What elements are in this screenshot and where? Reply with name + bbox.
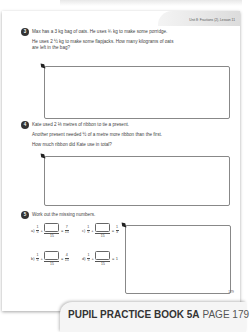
answer-box-3[interactable] [44, 66, 230, 119]
missing-numerator-c[interactable]: 15 [95, 223, 110, 238]
question-5-line-1: Work out the missing numbers. [32, 212, 95, 218]
fraction: 15 [87, 254, 90, 263]
unit-label: Unit 8: Fractions (2), Lesson 11 [189, 18, 235, 22]
fraction: 715 [65, 226, 69, 235]
item-label: d) [82, 256, 86, 261]
fraction: 15 [36, 226, 39, 235]
missing-numerator-b[interactable]: 15 [44, 251, 59, 266]
top-shadow [60, 0, 242, 6]
item-label: b) [31, 256, 35, 261]
footer-banner: PUPIL PRACTICE BOOK 5APAGE 179 [60, 302, 246, 332]
item-label: a) [31, 228, 35, 233]
book-title: PUPIL PRACTICE BOOK 5A [68, 309, 200, 320]
page-number: 179 [228, 290, 234, 294]
question-number-4: 4 [21, 121, 29, 129]
question-3-line-1: Max has a 3 kg bag of oats. He uses ¾ kg… [32, 29, 167, 35]
pencil-icon [121, 222, 127, 228]
item-b: b) 15 + 15 = 415 [31, 251, 69, 266]
workbook-page: Unit 8: Fractions (2), Lesson 11 3 Max h… [2, 11, 240, 311]
missing-numerator-a[interactable]: 15 [44, 223, 59, 238]
question-3-line-3: are left in the bag? [32, 45, 70, 51]
question-number-5: 5 [21, 211, 29, 219]
question-4-line-3: How much ribbon did Kate use in total? [32, 142, 112, 148]
item-a: a) 15 + 15 = 715 [31, 223, 69, 238]
fraction: 15 [36, 254, 39, 263]
item-label: c) [82, 228, 85, 233]
unit-tab: Unit 8: Fractions (2), Lesson 11 [158, 11, 240, 26]
fraction: 13 [116, 226, 119, 235]
answer-box-4[interactable] [44, 156, 230, 206]
pencil-icon [40, 153, 46, 159]
fraction: 15 [87, 226, 90, 235]
question-number-3: 3 [21, 28, 29, 36]
working-box-5[interactable] [125, 225, 231, 294]
footer-page: PAGE 179 [203, 309, 250, 320]
item-c: c) 15 + 15 = 13 [82, 223, 119, 238]
fraction: 415 [65, 254, 69, 263]
question-4-line-2: Another present needed ½ of a metre more… [32, 132, 162, 138]
item-d: d) 15 + 15 = 1 [82, 251, 118, 266]
missing-numerator-d[interactable]: 15 [95, 251, 110, 266]
question-4-line-1: Kate used 2 ⅓ metres of ribbon to tie a … [32, 122, 129, 128]
pencil-icon [40, 63, 46, 69]
